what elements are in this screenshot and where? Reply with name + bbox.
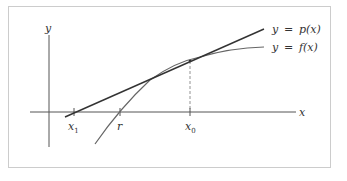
newton-method-diagram: x y y = p(x) y = f(x) x1 r x0 bbox=[0, 0, 347, 181]
x-axis-label: x bbox=[299, 106, 306, 119]
tangent-label: y = p(x) bbox=[271, 23, 321, 36]
figure-frame bbox=[9, 7, 331, 168]
tangent-point bbox=[189, 60, 192, 63]
y-axis-label: y bbox=[44, 22, 52, 35]
function-label: y = f(x) bbox=[271, 41, 318, 54]
tick-label-r: r bbox=[117, 120, 123, 133]
